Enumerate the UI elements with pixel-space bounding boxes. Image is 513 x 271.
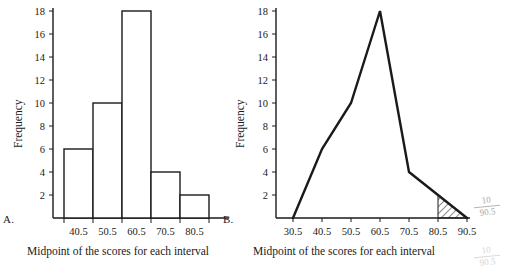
x-tick: 60.5 <box>371 226 389 237</box>
panel-a-x-ticklabels: 40.5 50.5 60.5 70.5 80.5 <box>69 226 203 237</box>
x-tick: 30.5 <box>284 226 302 237</box>
y-tick: 12 <box>258 75 269 86</box>
bar-70.5 <box>151 172 180 218</box>
y-tick: 4 <box>263 167 269 178</box>
panel-a-y-ticklabels: 18 16 14 12 10 8 6 4 2 <box>35 6 46 201</box>
y-tick: 4 <box>40 167 46 178</box>
handwritten-annotation-1: 10 90.5 <box>473 195 501 219</box>
panel-b-polyline <box>293 11 467 218</box>
panel-b-plot: 18 16 14 12 10 8 6 4 2 <box>220 0 513 240</box>
y-tick: 8 <box>40 121 45 132</box>
panel-a-bars <box>64 11 209 218</box>
x-tick: 40.5 <box>313 226 331 237</box>
bar-50.5 <box>93 103 122 218</box>
x-tick: 40.5 <box>69 226 87 237</box>
y-tick: 6 <box>40 144 45 155</box>
x-tick: 70.5 <box>400 226 418 237</box>
x-tick: 50.5 <box>342 226 360 237</box>
y-tick: 14 <box>258 52 269 63</box>
panel-a-histogram: A. Frequency Midpoint of the scores for … <box>0 0 256 271</box>
x-tick: 80.5 <box>185 226 203 237</box>
panel-b-x-ticklabels: 30.5 40.5 50.5 60.5 70.5 80.5 90.5 <box>284 226 476 237</box>
panel-b-frequency-polygon: B. Frequency Midpoint of the scores for … <box>220 0 513 271</box>
x-tick: 70.5 <box>156 226 174 237</box>
panel-a-plot: 18 16 14 12 10 8 6 4 2 <box>0 0 256 240</box>
x-tick: 50.5 <box>98 226 116 237</box>
x-tick: 90.5 <box>458 226 476 237</box>
y-tick: 16 <box>258 29 269 40</box>
y-tick: 2 <box>263 190 268 201</box>
x-tick: 60.5 <box>127 226 145 237</box>
y-tick: 10 <box>35 98 46 109</box>
panel-a-x-ticks <box>64 218 209 223</box>
handwritten-annotation-2: 10 90.5 <box>473 245 501 269</box>
y-tick: 12 <box>35 75 46 86</box>
y-tick: 6 <box>263 144 268 155</box>
bar-40.5 <box>64 149 93 218</box>
y-tick: 18 <box>258 6 269 17</box>
panel-b-y-ticklabels: 18 16 14 12 10 8 6 4 2 <box>258 6 269 201</box>
figure-two-panel-charts: A. Frequency Midpoint of the scores for … <box>0 0 513 271</box>
panel-b-x-axis-label: Midpoint of the scores for each interval <box>253 245 435 257</box>
y-tick: 10 <box>258 98 269 109</box>
y-tick: 8 <box>263 121 268 132</box>
bar-60.5 <box>122 11 151 218</box>
y-tick: 16 <box>35 29 46 40</box>
y-tick: 14 <box>35 52 46 63</box>
y-tick: 2 <box>40 190 45 201</box>
x-tick: 80.5 <box>429 226 447 237</box>
panel-a-x-axis-label: Midpoint of the scores for each interval <box>27 245 209 257</box>
bar-80.5 <box>180 195 209 218</box>
y-tick: 18 <box>35 6 46 17</box>
